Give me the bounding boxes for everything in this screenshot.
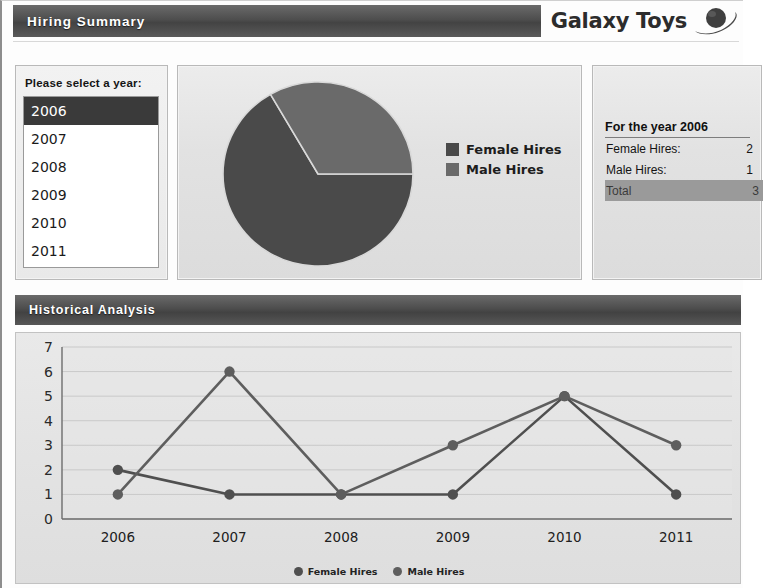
- svg-text:4: 4: [44, 413, 53, 429]
- svg-text:3: 3: [44, 437, 53, 453]
- historical-analysis-title: Historical Analysis: [29, 303, 156, 317]
- detail-row-total: Total 3: [605, 180, 763, 201]
- legend-dot-female-icon: [294, 567, 303, 576]
- detail-value-female: 2: [746, 142, 753, 156]
- line-chart-legend: Female Hires Male Hires: [16, 566, 742, 577]
- page-title: Hiring Summary: [27, 14, 145, 29]
- detail-label-male: Male Hires:: [605, 163, 667, 177]
- pie-legend-item-male: Male Hires: [446, 162, 562, 177]
- page-header-bar: Hiring Summary: [13, 5, 541, 37]
- line-legend-item-male: Male Hires: [393, 566, 464, 577]
- header-divider: [13, 41, 739, 42]
- year-option-2009[interactable]: 2009: [24, 181, 158, 209]
- svg-text:7: 7: [44, 339, 53, 355]
- svg-text:0: 0: [44, 511, 53, 527]
- year-detail-panel: For the year 2006 Female Hires: 2 Male H…: [592, 65, 762, 280]
- pie-chart-panel: Female Hires Male Hires: [177, 65, 582, 280]
- legend-swatch-female-icon: [446, 143, 459, 156]
- pie-chart-svg: [220, 78, 416, 268]
- detail-value-male: 1: [746, 163, 753, 177]
- line-legend-label-male: Male Hires: [407, 566, 464, 577]
- brand-name: Galaxy Toys: [551, 9, 687, 33]
- pie-legend-item-female: Female Hires: [446, 142, 562, 157]
- svg-text:5: 5: [44, 388, 53, 404]
- svg-text:2008: 2008: [324, 529, 358, 545]
- year-selector-label: Please select a year:: [25, 77, 142, 89]
- year-detail-table: For the year 2006 Female Hires: 2 Male H…: [605, 120, 767, 201]
- svg-text:6: 6: [44, 364, 53, 380]
- historical-analysis-header: Historical Analysis: [15, 295, 741, 325]
- line-chart-panel: 01234567200620072008200920102011 Female …: [15, 332, 741, 584]
- detail-label-female: Female Hires:: [605, 142, 681, 156]
- svg-text:1: 1: [44, 486, 53, 502]
- svg-text:2011: 2011: [659, 529, 693, 545]
- pie-legend: Female Hires Male Hires: [446, 142, 562, 177]
- line-legend-item-female: Female Hires: [294, 566, 378, 577]
- svg-text:2007: 2007: [212, 529, 246, 545]
- line-legend-label-female: Female Hires: [308, 566, 378, 577]
- year-option-2006[interactable]: 2006: [24, 97, 158, 125]
- legend-swatch-male-icon: [446, 163, 459, 176]
- brand-logo: Galaxy Toys: [539, 3, 739, 39]
- line-chart-svg: 01234567200620072008200920102011: [16, 333, 742, 558]
- svg-text:2010: 2010: [547, 529, 581, 545]
- detail-label-total: Total: [605, 184, 631, 198]
- year-option-2010[interactable]: 2010: [24, 209, 158, 237]
- detail-value-total: 3: [752, 184, 759, 198]
- year-listbox[interactable]: 2006 2007 2008 2009 2010 2011: [23, 96, 159, 268]
- detail-row-male: Male Hires: 1: [605, 159, 757, 180]
- pie-chart: [220, 78, 416, 268]
- detail-row-female: Female Hires: 2: [605, 138, 757, 159]
- svg-text:2: 2: [44, 462, 53, 478]
- legend-label-male: Male Hires: [466, 162, 544, 177]
- year-option-2007[interactable]: 2007: [24, 125, 158, 153]
- svg-text:2006: 2006: [101, 529, 135, 545]
- legend-label-female: Female Hires: [466, 142, 562, 157]
- year-option-2011[interactable]: 2011: [24, 237, 158, 265]
- year-option-2008[interactable]: 2008: [24, 153, 158, 181]
- saturn-planet-icon: [691, 4, 739, 38]
- legend-dot-male-icon: [393, 567, 402, 576]
- year-selector-panel: Please select a year: 2006 2007 2008 200…: [15, 65, 168, 280]
- year-detail-title: For the year 2006: [605, 120, 750, 138]
- svg-text:2009: 2009: [436, 529, 470, 545]
